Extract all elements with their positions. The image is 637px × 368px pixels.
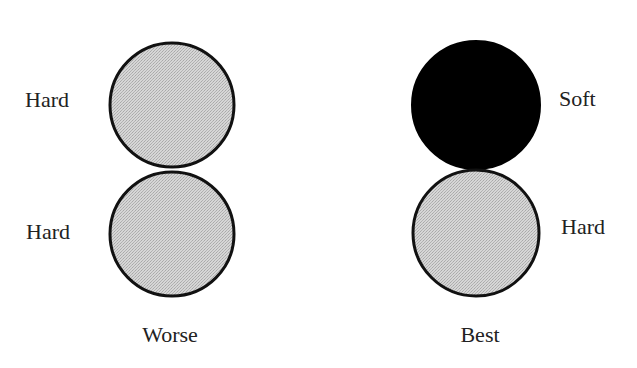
- best-top-soft-ball: [412, 41, 540, 169]
- diagram-canvas: [0, 0, 637, 368]
- worse-top-ball-label: Hard: [25, 89, 69, 111]
- best-caption: Best: [460, 324, 499, 346]
- worse-bottom-ball-label: Hard: [26, 221, 70, 243]
- best-bottom-hard-ball: [413, 170, 539, 296]
- best-bottom-ball-label: Hard: [561, 216, 605, 238]
- diagram: Hard Hard Worse Soft Hard Best: [0, 0, 637, 368]
- worse-bottom-hard-ball: [110, 172, 234, 296]
- best-top-ball-label: Soft: [559, 88, 596, 110]
- worse-top-hard-ball: [110, 43, 234, 167]
- worse-caption: Worse: [142, 324, 198, 346]
